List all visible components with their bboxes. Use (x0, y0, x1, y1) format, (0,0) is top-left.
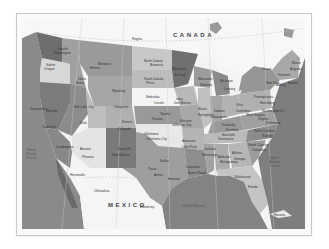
us-political-map: CANADAMEXICONorth Pacific OceanNorth Atl… (22, 18, 305, 229)
place-label: Georgia (234, 158, 245, 161)
place-label: Cheyenne (114, 106, 129, 109)
place-label: Salem (46, 64, 55, 67)
place-label: Washington (54, 52, 71, 55)
place-label: Columbia (252, 149, 265, 152)
place-label: Nevada (46, 110, 57, 113)
ocean-label: Gulf of Mexico (182, 204, 205, 208)
place-label: Frankfort (226, 129, 239, 132)
place-label: Arkansas (182, 140, 195, 143)
place-label: Lincoln (154, 102, 164, 105)
place-label: Maine (292, 62, 301, 65)
place-label: Lansing (224, 88, 235, 91)
place-label: Monterrey (140, 206, 154, 209)
place-label: Michigan (220, 80, 233, 83)
place-label: Tallahassee (234, 176, 251, 179)
place-label: Raleigh (262, 135, 273, 138)
kansas-shape (134, 106, 182, 124)
place-label: Los Angeles (56, 146, 73, 149)
place-label: Austin (154, 174, 163, 177)
place-label: Phoenix (82, 156, 94, 159)
place-label: West Virginia (246, 114, 265, 117)
ocean-label: North Pacific Ocean (26, 148, 37, 160)
place-label: Jefferson City (172, 124, 191, 127)
place-label: Wyoming (112, 90, 125, 93)
place-label: Little Rock (182, 146, 197, 149)
montana-shape (78, 40, 132, 76)
place-label: South Carolina (248, 144, 269, 147)
place-label: Colorado (118, 128, 131, 131)
place-label: Bismarck (150, 64, 163, 67)
place-label: Vermont (278, 74, 290, 77)
place-label: Montgomery (220, 161, 238, 164)
place-label: Albany (276, 84, 286, 87)
place-label: Indianapolis (210, 116, 227, 119)
place-label: Kentucky (222, 124, 235, 127)
place-label: Jackson (204, 148, 216, 151)
place-label: Seattle (58, 48, 68, 51)
place-label: Indiana (214, 110, 224, 113)
place-label: Texas (148, 168, 156, 171)
place-label: Kansas (152, 118, 163, 121)
place-label: Pierre (146, 82, 155, 85)
place-label: New Mexico (112, 154, 129, 157)
place-label: Santa Fe (118, 148, 131, 151)
place-label: Houston (168, 178, 180, 181)
place-label: Boise (76, 82, 84, 85)
place-label: Regina (132, 38, 142, 41)
place-label: Nashville (222, 134, 235, 137)
place-label: Illinois (198, 108, 207, 111)
place-label: Tennessee (218, 138, 233, 141)
place-label: Arizona (80, 148, 91, 151)
place-label: Oregon (44, 68, 55, 71)
place-label: Harrisburg (260, 102, 275, 105)
place-label: Utah (80, 122, 87, 125)
place-label: Nebraska (146, 96, 160, 99)
place-label: Wisconsin (198, 78, 213, 81)
ocean-label: North Atlantic Ocean (269, 156, 281, 168)
place-label: Helena (90, 67, 100, 70)
place-label: North Carolina (254, 130, 275, 133)
place-label: Boston (288, 82, 298, 85)
place-label: Sacramento (30, 108, 47, 111)
place-label: Havana (274, 214, 285, 217)
place-label: Salt Lake City (74, 106, 94, 109)
place-label: Madison (200, 84, 212, 87)
place-label: Minnesota (172, 68, 187, 71)
country-label: CANADA (173, 32, 214, 38)
place-label: Washington D.C. (262, 110, 286, 113)
place-label: Oklahoma (144, 133, 159, 136)
place-label: California (42, 126, 55, 129)
place-label: Ottawa (261, 68, 271, 71)
place-label: Topeka (160, 113, 170, 116)
place-label: Oklahoma City (146, 138, 167, 141)
place-label: Pennsylvania (254, 96, 273, 99)
place-label: Augusta (290, 68, 302, 71)
wyoming-shape (88, 76, 132, 106)
place-label: Florida (248, 186, 258, 189)
place-label: Dallas (160, 160, 169, 163)
place-label: Atlanta (232, 152, 242, 155)
place-label: Hermosillo (70, 174, 85, 177)
place-label: Richmond (266, 122, 280, 125)
place-label: Alabama (218, 156, 231, 159)
place-label: Baton Rouge (188, 172, 207, 175)
place-label: Chihuahua (94, 190, 109, 193)
place-label: Mississippi (202, 154, 217, 157)
place-label: Des Moines (174, 102, 191, 105)
place-label: Denver (122, 121, 132, 124)
place-label: Louisiana (186, 166, 200, 169)
place-label: St. Paul (174, 74, 185, 77)
place-label: Ohio (236, 104, 243, 107)
